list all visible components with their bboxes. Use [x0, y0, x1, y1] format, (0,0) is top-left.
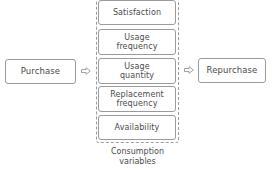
- variable-label: Usage: [116, 33, 157, 43]
- variable-replacement-frequency: Replacement frequency: [98, 86, 176, 112]
- purchase-node: Purchase: [5, 59, 76, 84]
- variable-label: frequency: [116, 42, 157, 52]
- repurchase-label: Repurchase: [207, 66, 258, 76]
- variable-label: Usage: [120, 62, 154, 72]
- variable-usage-quantity: Usage quantity: [98, 58, 176, 84]
- caption-line: Consumption: [96, 147, 179, 157]
- variable-label: quantity: [120, 71, 154, 81]
- variable-usage-frequency: Usage frequency: [98, 29, 176, 55]
- variable-satisfaction: Satisfaction: [98, 0, 176, 25]
- hollow-right-arrow-icon: [184, 66, 194, 74]
- group-caption: Consumption variables: [96, 147, 179, 167]
- variable-label: Availability: [115, 123, 160, 133]
- purchase-label: Purchase: [21, 67, 60, 77]
- repurchase-node: Repurchase: [198, 58, 266, 83]
- variable-label: Satisfaction: [113, 8, 161, 18]
- hollow-right-arrow-icon: [81, 67, 91, 75]
- variable-label: Replacement: [110, 90, 164, 100]
- variable-label: frequency: [110, 99, 164, 109]
- caption-line: variables: [96, 157, 179, 167]
- variable-availability: Availability: [98, 115, 176, 140]
